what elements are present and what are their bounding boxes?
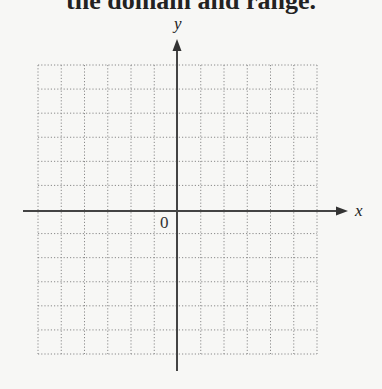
x-axis-arrow-icon (336, 207, 348, 216)
x-axis-label: x (355, 201, 363, 221)
origin-label: 0 (160, 213, 169, 233)
coordinate-grid (0, 0, 382, 389)
y-axis-arrow-icon (173, 39, 182, 51)
y-axis-label: y (174, 14, 182, 34)
